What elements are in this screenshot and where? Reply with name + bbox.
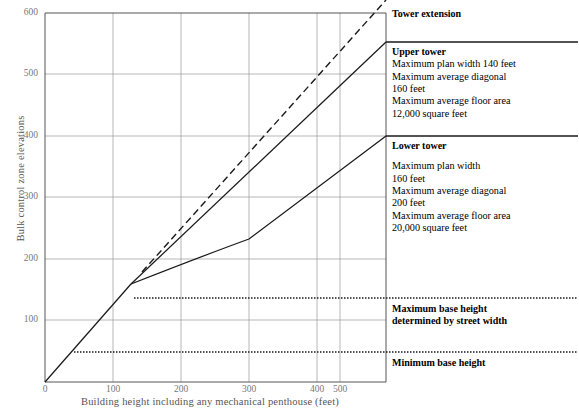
x-tick-200: 200 (161, 384, 201, 394)
series-base-segment (45, 284, 131, 382)
x-tick-100: 100 (93, 384, 133, 394)
annotation-upper-tower-line-4: Maximum average floor area (392, 95, 578, 107)
annotation-lower-tower: Lower tower Maximum plan width 160 feet … (392, 140, 578, 235)
annotation-upper-tower-line-3: 160 feet (392, 83, 578, 95)
annotation-upper-tower-line-2: Maximum average diagonal (392, 71, 578, 83)
annotation-lower-tower-title: Lower tower (392, 140, 447, 151)
annotation-tower-extension: Tower extension (392, 8, 578, 20)
annotation-upper-tower: Upper tower Maximum plan width 140 feet … (392, 46, 578, 120)
plot-axes (45, 13, 386, 382)
x-tick-500: 500 (320, 384, 360, 394)
x-tick-0: 0 (25, 384, 65, 394)
annotation-max-base-height-line-1: Maximum base height (392, 303, 578, 315)
series-lower-tower (131, 136, 386, 284)
y-tick-600: 600 (8, 7, 38, 17)
annotation-min-base-height-line-1: Minimum base height (392, 357, 578, 369)
annotation-lower-tower-line-5: Maximum average floor area (392, 210, 578, 222)
annotation-upper-tower-line-5: 12,000 square feet (392, 108, 578, 120)
chart-figure: 600 500 400 300 200 100 0 100 200 300 40… (0, 0, 579, 416)
annotation-lower-tower-line-3: Maximum average diagonal (392, 185, 578, 197)
annotation-lower-tower-line-4: 200 feet (392, 197, 578, 209)
annotation-lower-tower-line-2: 160 feet (392, 173, 578, 185)
annotation-lower-tower-line-1: Maximum plan width (392, 160, 578, 172)
gridlines-horizontal (45, 74, 386, 320)
annotation-max-base-height: Maximum base height determined by street… (392, 303, 578, 327)
x-tick-300: 300 (229, 384, 269, 394)
annotation-max-base-height-line-2: determined by street width (392, 315, 578, 327)
y-tick-100: 100 (8, 314, 38, 324)
series-upper-tower (131, 42, 386, 284)
x-axis-label: Building height including any mechanical… (30, 396, 390, 407)
annotation-lower-tower-line-6: 20,000 square feet (392, 222, 578, 234)
annotation-upper-tower-title: Upper tower (392, 46, 446, 57)
annotation-tower-extension-title: Tower extension (392, 8, 461, 19)
annotation-upper-tower-line-1: Maximum plan width 140 feet (392, 58, 578, 70)
gridlines-vertical (113, 13, 340, 382)
annotation-min-base-height: Minimum base height (392, 357, 578, 369)
y-axis-label: Bulk control zone elevations (15, 49, 26, 309)
